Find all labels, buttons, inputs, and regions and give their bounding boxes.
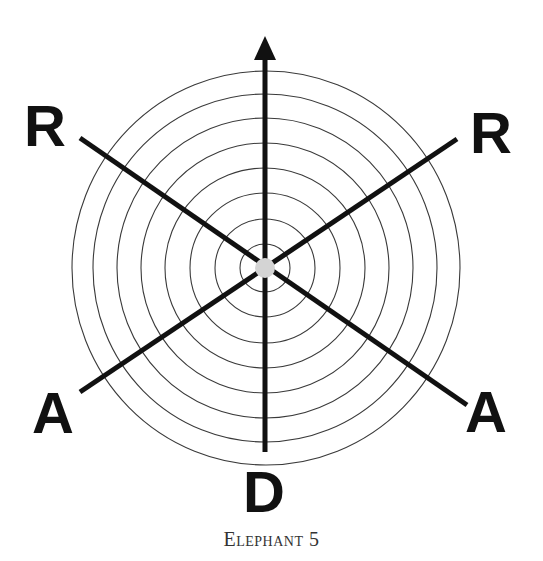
label-bottom-right: A: [465, 379, 507, 444]
label-top-right: R: [470, 100, 512, 165]
label-bottom: D: [243, 459, 285, 524]
label-top-left: R: [24, 93, 66, 158]
label-bottom-left: A: [32, 380, 74, 445]
center-dot: [255, 258, 275, 278]
concentric-ring-diagram: R R A A D: [0, 0, 543, 561]
axes: [80, 36, 467, 452]
arrow-up-icon: [254, 36, 276, 60]
figure-caption: Elephant 5: [0, 528, 543, 551]
